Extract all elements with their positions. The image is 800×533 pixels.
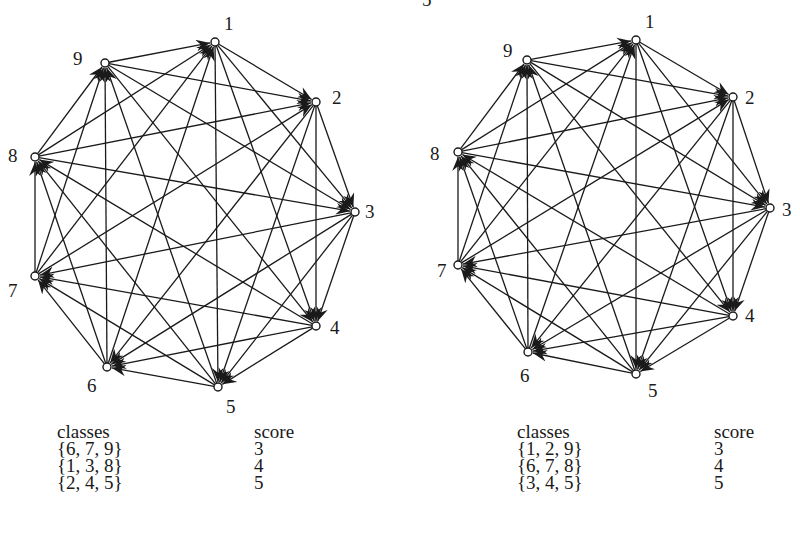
edge-3-to-5 xyxy=(639,211,767,370)
edge-1-to-3 xyxy=(218,45,352,208)
node-label-2: 2 xyxy=(332,87,342,108)
edge-3-to-6 xyxy=(532,210,766,349)
edge-4-to-5 xyxy=(640,318,729,371)
edge-9-to-1 xyxy=(531,41,631,59)
edge-9-to-1 xyxy=(109,43,210,62)
node-label-7: 7 xyxy=(437,260,447,281)
edge-2-to-5 xyxy=(638,101,732,370)
edge-2-to-5 xyxy=(220,106,315,382)
node-label-6: 6 xyxy=(87,375,97,396)
node-4 xyxy=(312,322,320,330)
node-label-8: 8 xyxy=(8,145,18,166)
edge-2-to-3 xyxy=(734,101,768,203)
edge-8-to-9 xyxy=(460,64,524,149)
edge-7-to-1 xyxy=(37,46,212,273)
score-column: score 3 4 5 xyxy=(714,423,754,491)
edge-9-to-3 xyxy=(530,62,765,205)
node-6 xyxy=(103,363,111,371)
edge-9-to-2 xyxy=(531,61,728,96)
node-label-4: 4 xyxy=(745,305,755,326)
edge-5-to-6 xyxy=(112,368,214,386)
edge-3-to-5 xyxy=(221,215,352,383)
edge-4-to-8 xyxy=(39,160,312,324)
edge-7-to-9 xyxy=(36,68,103,272)
edge-5-to-9 xyxy=(529,65,635,370)
edge-4-to-6 xyxy=(533,317,729,351)
node-7 xyxy=(31,272,39,280)
classes-column: classes {1, 2, 9} {6, 7, 8} {3, 4, 5} xyxy=(517,423,583,491)
class-cell: {3, 4, 5} xyxy=(517,474,583,491)
edge-5-to-8 xyxy=(461,156,633,371)
node-5 xyxy=(632,370,640,378)
node-label-8: 8 xyxy=(430,143,440,164)
edge-5-to-9 xyxy=(107,68,217,384)
edge-1-to-5 xyxy=(215,46,218,382)
edge-9-to-4 xyxy=(530,63,730,312)
node-label-4: 4 xyxy=(330,317,340,338)
graph-right: 123456789 xyxy=(430,11,792,401)
edge-6-to-1 xyxy=(529,45,634,348)
node-5 xyxy=(214,383,222,391)
edge-5-to-8 xyxy=(38,161,215,384)
node-1 xyxy=(211,38,219,46)
node-2 xyxy=(312,98,320,106)
node-8 xyxy=(31,153,39,161)
node-label-1: 1 xyxy=(224,13,234,34)
cropped-label-fragment: 5 xyxy=(422,0,432,10)
classes-column: classes {6, 7, 9} {1, 3, 8} {2, 4, 5} xyxy=(57,423,123,491)
edge-9-to-2 xyxy=(109,64,311,101)
edge-6-to-8 xyxy=(460,157,527,349)
score-cell: 5 xyxy=(254,474,294,491)
edge-8-to-9 xyxy=(37,67,102,154)
node-label-6: 6 xyxy=(520,365,530,386)
node-label-5: 5 xyxy=(648,380,658,401)
node-label-7: 7 xyxy=(8,280,18,301)
edge-1-to-4 xyxy=(637,44,731,312)
edge-5-to-7 xyxy=(39,279,214,385)
edge-9-to-4 xyxy=(108,66,313,322)
node-2 xyxy=(729,93,737,101)
node-1 xyxy=(632,36,640,44)
edge-9-to-3 xyxy=(108,65,350,209)
edge-4-to-7 xyxy=(40,277,312,325)
node-6 xyxy=(524,348,532,356)
edge-6-to-7 xyxy=(38,280,104,364)
node-label-3: 3 xyxy=(365,201,375,222)
node-9 xyxy=(523,56,531,64)
edge-3-to-7 xyxy=(463,209,766,264)
edge-6-to-7 xyxy=(461,269,525,349)
edge-8-to-3 xyxy=(462,153,765,207)
node-label-1: 1 xyxy=(645,11,655,32)
node-3 xyxy=(351,208,359,216)
edge-1-to-4 xyxy=(216,46,314,322)
node-3 xyxy=(766,204,774,212)
node-label-5: 5 xyxy=(226,396,236,417)
node-label-3: 3 xyxy=(782,199,792,220)
node-8 xyxy=(454,148,462,156)
node-4 xyxy=(729,312,737,320)
edge-8-to-1 xyxy=(38,45,210,155)
node-label-9: 9 xyxy=(73,48,83,69)
graph-left: 123456789 xyxy=(8,13,375,417)
node-9 xyxy=(101,59,109,67)
node-label-9: 9 xyxy=(503,40,513,61)
score-column: score 3 4 5 xyxy=(254,423,294,491)
node-label-2: 2 xyxy=(745,87,755,108)
class-cell: {2, 4, 5} xyxy=(57,474,123,491)
edge-7-to-1 xyxy=(460,44,632,262)
edge-8-to-3 xyxy=(39,158,350,211)
edge-6-to-8 xyxy=(37,162,106,363)
node-7 xyxy=(454,261,462,269)
edge-1-to-3 xyxy=(638,43,766,204)
score-cell: 5 xyxy=(714,474,754,491)
